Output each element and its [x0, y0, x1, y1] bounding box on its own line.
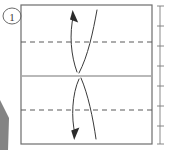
origami-diagram-canvas: 1	[0, 0, 173, 150]
step-number-label: 1	[9, 11, 15, 23]
origami-step-figure: 1	[0, 0, 173, 150]
figure-background	[0, 0, 173, 150]
